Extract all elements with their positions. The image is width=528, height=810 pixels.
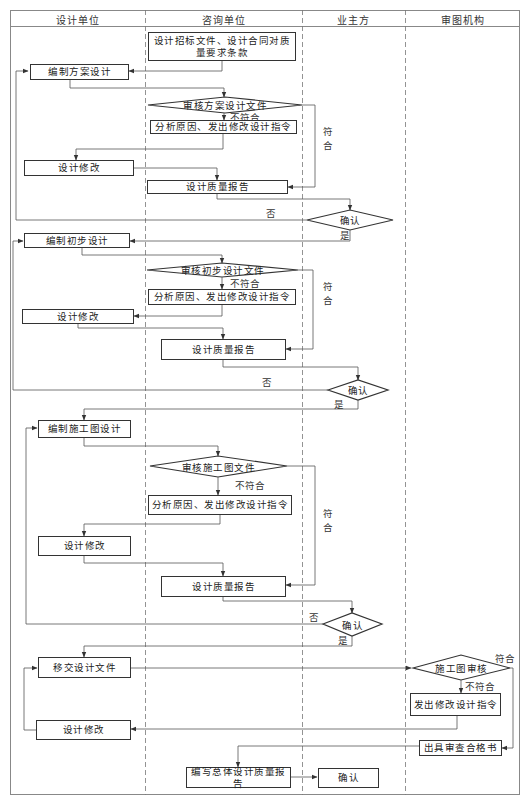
design-quality-report-box: 设计质量报告 xyxy=(161,576,286,597)
design-revise-box: 设计修改 xyxy=(38,536,131,556)
design-quality-report-box: 设计质量报告 xyxy=(161,339,286,360)
yes-label: 是 xyxy=(334,399,344,410)
analyze-instruct-box: 分析原因、发出修改设计指令 xyxy=(148,495,292,515)
owner-confirm-diamond: 确认 xyxy=(323,613,382,636)
pass-label: 符合 xyxy=(495,653,515,664)
pass-label: 符合 xyxy=(322,280,333,308)
preliminary-design-box: 编制初步设计 xyxy=(24,233,130,248)
analyze-instruct-box: 分析原因、发出修改设计指令 xyxy=(150,120,297,134)
no-label: 否 xyxy=(262,377,272,388)
pass-label: 符合 xyxy=(322,507,333,535)
issue-revision-instruction-box: 发出修改设计指令 xyxy=(410,693,501,716)
lane-header-consulting-unit: 咨询单位 xyxy=(145,11,302,27)
no-label: 否 xyxy=(266,208,276,219)
owner-confirm-diamond: 确认 xyxy=(328,380,388,400)
handover-design-files-box: 移交设计文件 xyxy=(38,657,131,678)
design-revise-box: 设计修改 xyxy=(36,720,131,740)
no-label: 否 xyxy=(309,612,319,623)
lane-header-owner: 业主方 xyxy=(302,11,405,27)
construction-drawing-design-box: 编制施工图设计 xyxy=(38,420,131,438)
pass-label: 符合 xyxy=(322,125,333,153)
fail-label: 不符合 xyxy=(230,278,260,289)
construction-drawing-review-diamond: 审核施工图文件 xyxy=(150,456,287,477)
preliminary-review-diamond: 审核初步设计文件 xyxy=(147,263,298,277)
lane-header-review-agency: 审图机构 xyxy=(405,11,520,27)
overall-quality-report-box: 编写总体设计质量报告 xyxy=(186,767,291,788)
design-quality-report-box: 设计质量报告 xyxy=(147,180,288,194)
fail-label: 不符合 xyxy=(235,480,265,491)
lane-header-design-unit: 设计单位 xyxy=(10,11,145,27)
owner-confirm-diamond: 确认 xyxy=(307,210,393,230)
yes-label: 是 xyxy=(340,230,350,241)
analyze-instruct-box: 分析原因、发出修改设计指令 xyxy=(148,289,296,305)
issue-approval-certificate-box: 出具审查合格书 xyxy=(419,740,502,756)
design-revise-box: 设计修改 xyxy=(22,309,134,324)
fail-label: 不符合 xyxy=(465,681,495,692)
scheme-review-diamond: 审核方案设计文件 xyxy=(148,97,302,113)
design-revise-box: 设计修改 xyxy=(24,160,134,176)
scheme-design-box: 编制方案设计 xyxy=(30,64,129,80)
start-requirements-box: 设计招标文件、设计合同对质量要求条款 xyxy=(148,32,296,61)
final-confirm-box: 确认 xyxy=(318,768,379,788)
yes-label: 是 xyxy=(338,635,348,646)
